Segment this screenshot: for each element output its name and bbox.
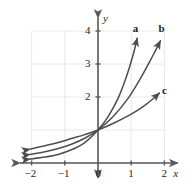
curve-label-a: a <box>133 23 139 34</box>
y-tick-label-1: 3 <box>85 58 91 69</box>
x-tick-label-3: 1 <box>128 168 134 179</box>
x-tick-label-1: −1 <box>58 168 70 179</box>
y-tick-label-0: 2 <box>85 91 91 102</box>
curve-a <box>30 38 137 159</box>
curve-c <box>30 93 159 149</box>
exponential-functions-figure: −2−1012234xyabc <box>0 0 191 193</box>
curve-b <box>30 41 160 155</box>
curve-label-c: c <box>162 85 167 96</box>
y-tick-label-2: 4 <box>85 25 91 36</box>
x-tick-label-2: 0 <box>96 168 102 179</box>
curve-label-b: b <box>158 23 164 34</box>
x-axis-label: x <box>173 168 178 179</box>
y-axis-label: y <box>103 13 108 24</box>
curve-series <box>30 38 160 159</box>
x-tick-label-4: 2 <box>161 168 167 179</box>
x-tick-label-0: −2 <box>25 168 37 179</box>
